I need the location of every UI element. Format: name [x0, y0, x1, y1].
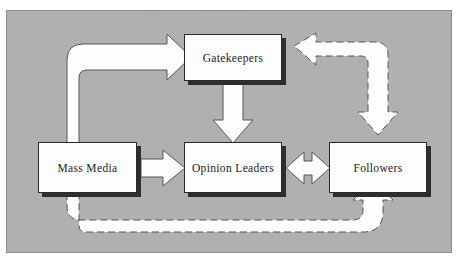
node-followers[interactable]: Followers	[329, 142, 427, 193]
arrow-gatekeepers-to-opinion	[213, 81, 253, 143]
node-mass-media[interactable]: Mass Media	[38, 142, 137, 193]
node-gatekeepers-label: Gatekeepers	[203, 52, 264, 64]
diagram-panel: .arw { fill: #fdfdfd; stroke: #55555a; s…	[6, 10, 452, 253]
node-followers-label: Followers	[353, 162, 402, 174]
node-mass-media-label: Mass Media	[57, 162, 117, 174]
diagram-root: .arw { fill: #fdfdfd; stroke: #55555a; s…	[0, 0, 458, 260]
node-opinion-leaders[interactable]: Opinion Leaders	[184, 142, 282, 193]
arrow-massmedia-to-opinion	[141, 150, 185, 186]
node-opinion-leaders-label: Opinion Leaders	[192, 162, 274, 174]
arrow-followers-to-gatekeepers	[294, 33, 398, 135]
node-gatekeepers[interactable]: Gatekeepers	[184, 34, 282, 81]
arrow-opinion-to-followers	[286, 152, 330, 184]
